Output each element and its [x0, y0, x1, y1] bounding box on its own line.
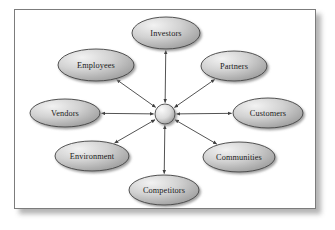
connector-hub-communities	[175, 120, 217, 144]
connector-hub-customers	[177, 113, 232, 114]
hub-layer	[155, 104, 175, 124]
connector-hub-partners	[174, 79, 214, 107]
node-label-customers: Customers	[250, 109, 286, 118]
node-label-vendors: Vendors	[51, 109, 79, 118]
node-vendors[interactable]: Vendors	[30, 99, 100, 127]
node-label-partners: Partners	[220, 62, 248, 71]
connector-hub-employees	[117, 80, 156, 108]
node-communities[interactable]: Communities	[203, 142, 275, 172]
node-environment[interactable]: Environment	[55, 141, 129, 171]
node-label-environment: Environment	[70, 152, 115, 161]
node-label-investors: Investors	[150, 29, 181, 38]
connector-hub-environment	[115, 120, 155, 143]
diagram-canvas: InvestorsPartnersCustomersCommunitiesCom…	[0, 0, 335, 230]
node-customers[interactable]: Customers	[233, 98, 303, 128]
node-employees[interactable]: Employees	[58, 49, 134, 81]
node-label-competitors: Competitors	[143, 186, 185, 195]
connector-hub-competitors	[164, 126, 165, 174]
node-investors[interactable]: Investors	[132, 17, 200, 49]
connector-hub-vendors	[101, 113, 153, 114]
connector-hub-investors	[165, 51, 166, 103]
stakeholder-diagram: InvestorsPartnersCustomersCommunitiesCom…	[0, 0, 335, 230]
node-competitors[interactable]: Competitors	[129, 175, 199, 205]
node-partners[interactable]: Partners	[201, 51, 267, 81]
node-label-communities: Communities	[216, 153, 262, 162]
center-hub-circle[interactable]	[155, 104, 175, 124]
node-label-employees: Employees	[77, 61, 115, 70]
